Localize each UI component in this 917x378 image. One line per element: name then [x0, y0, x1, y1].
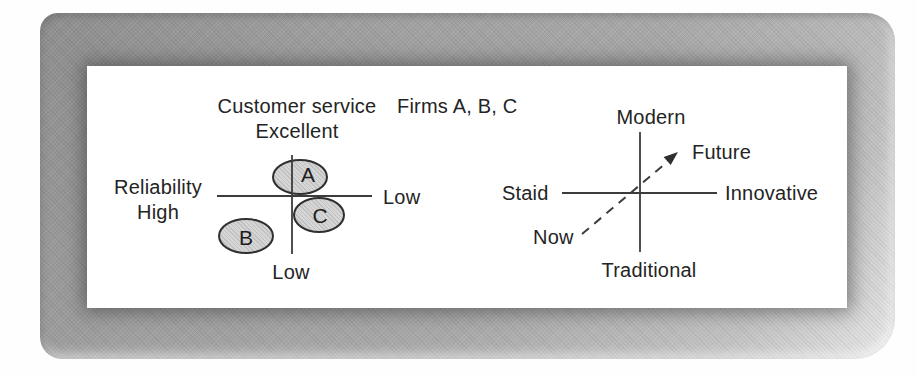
right-map-top-axis-label: Modern: [616, 105, 685, 130]
future-arrow-end-label: Future: [692, 140, 751, 165]
figure-panel: Customer service Excellent Firms A, B, C…: [87, 66, 847, 308]
left-map-top-axis-label: Customer service Excellent: [218, 94, 377, 144]
left-map-left-axis-label-line1: Reliability: [114, 175, 202, 200]
right-map-bottom-axis-label: Traditional: [602, 258, 697, 283]
left-map-top-axis-label-line2: Excellent: [218, 119, 377, 144]
firm-a-letter: A: [301, 163, 315, 187]
left-map-left-axis-label-line2: High: [114, 200, 202, 225]
left-map-left-axis-label: Reliability High: [114, 175, 202, 225]
firm-a-ellipse: A: [272, 159, 328, 195]
left-map-bottom-axis-label: Low: [272, 260, 309, 285]
now-arrow-start-label: Now: [533, 225, 574, 250]
right-map-right-axis-label: Innovative: [725, 181, 818, 206]
firm-b-ellipse: B: [218, 218, 274, 254]
right-map-left-axis-label: Staid: [502, 181, 549, 206]
left-map-right-axis-label: Low: [383, 185, 420, 210]
arrowhead-icon: [664, 152, 678, 165]
figure-page: Customer service Excellent Firms A, B, C…: [0, 0, 917, 378]
firm-b-letter: B: [239, 226, 253, 250]
left-map-caption: Firms A, B, C: [397, 94, 517, 119]
firm-c-ellipse: C: [293, 197, 345, 233]
now-to-future-dashed-arrow-shaft: [582, 163, 666, 234]
firm-c-letter: C: [312, 204, 327, 228]
left-map-top-axis-label-line1: Customer service: [218, 94, 377, 119]
